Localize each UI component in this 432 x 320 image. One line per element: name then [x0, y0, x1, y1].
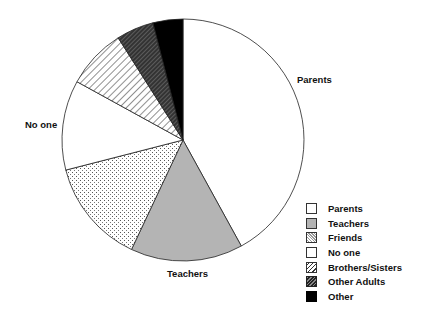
legend-label: Parents [328, 203, 363, 214]
legend-swatch-white-icon [306, 247, 317, 258]
legend-label: Other Adults [328, 276, 385, 287]
legend-item-friends: Friends [306, 230, 402, 245]
pie-slices [62, 19, 304, 261]
legend-swatch-dotted-icon [306, 232, 317, 243]
legend-swatch-hatch-icon [306, 262, 317, 273]
legend-label: Friends [328, 232, 362, 243]
legend: Parents Teachers Friends No one Brothers… [306, 201, 402, 304]
legend-swatch-black-icon [306, 291, 317, 302]
legend-item-no-one: No one [306, 245, 402, 260]
legend-swatch-gray-icon [306, 218, 317, 229]
legend-label: No one [328, 247, 360, 258]
legend-swatch-dense-hatch-icon [306, 276, 317, 287]
legend-item-parents: Parents [306, 201, 402, 216]
slice-label-no-one: No one [25, 119, 57, 130]
legend-item-other: Other [306, 289, 402, 304]
legend-item-other-adults: Other Adults [306, 274, 402, 289]
legend-swatch-white-icon [306, 203, 317, 214]
legend-item-teachers: Teachers [306, 216, 402, 231]
legend-label: Brothers/Sisters [328, 262, 402, 273]
slice-label-parents: Parents [297, 74, 332, 85]
slice-label-teachers: Teachers [167, 268, 208, 279]
legend-label: Other [328, 291, 353, 302]
legend-label: Teachers [328, 218, 369, 229]
legend-item-brothers-sisters: Brothers/Sisters [306, 260, 402, 275]
